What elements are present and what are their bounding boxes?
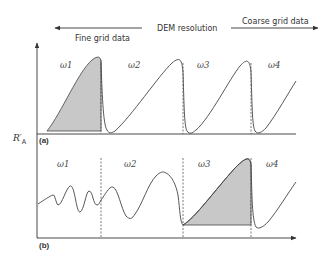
fine-grid-label: Fine grid data — [75, 34, 130, 43]
panel-a-tag: (a) — [39, 136, 49, 145]
panel-b-window-3: ω3 — [198, 159, 210, 169]
coarse-grid-label: Coarse grid data — [242, 17, 309, 26]
resolution-header: DEM resolution Fine grid data Coarse gri… — [55, 17, 318, 43]
panel-b: (b) ω1 ω2 ω3 ω4 — [37, 158, 296, 250]
dem-resolution-diagram: DEM resolution Fine grid data Coarse gri… — [0, 0, 330, 261]
panel-b-window-1: ω1 — [57, 159, 69, 169]
panel-a-window-4: ω4 — [268, 60, 280, 70]
panel-b-shaded-region — [183, 159, 251, 225]
panel-a-window-3: ω3 — [197, 60, 209, 70]
dem-resolution-label: DEM resolution — [157, 24, 217, 33]
y-axis-label: R′A — [12, 133, 27, 146]
panel-a-shaded-region — [47, 57, 101, 131]
panel-a-window-1: ω1 — [60, 60, 72, 70]
panel-b-window-4: ω4 — [266, 159, 278, 169]
panel-a: (a) ω1 ω2 ω3 ω4 — [37, 57, 296, 145]
panel-a-window-2: ω2 — [128, 60, 140, 70]
panel-b-curve — [38, 159, 296, 228]
panel-b-window-2: ω2 — [124, 159, 136, 169]
panel-a-curve — [101, 60, 296, 134]
panel-b-tag: (b) — [39, 241, 50, 250]
